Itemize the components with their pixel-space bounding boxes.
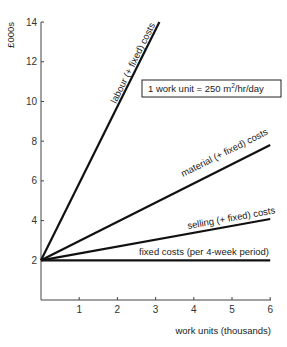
annotation-prefix: 1 work unit = 250 m (148, 83, 231, 94)
annotation-suffix: /hr/day (235, 83, 264, 94)
fixed-line-label: fixed costs (per 4-week period) (139, 246, 269, 257)
y-tick-label: 8 (31, 136, 37, 147)
y-tick-label: 6 (31, 175, 37, 186)
x-tick-label: 1 (76, 304, 82, 315)
x-tick-label: 6 (267, 304, 273, 315)
material-cost-line (41, 145, 270, 260)
x-tick-label: 3 (153, 304, 159, 315)
svg-text:1 work unit = 250 m2/hr/day: 1 work unit = 250 m2/hr/day (148, 82, 264, 94)
work-unit-annotation: 1 work unit = 250 m2/hr/day (142, 80, 281, 97)
x-tick-label: 2 (115, 304, 121, 315)
y-tick-label: 14 (26, 17, 38, 28)
cost-chart: 2 4 6 8 10 12 14 1 2 3 4 5 6 £000s work … (0, 0, 287, 347)
x-tick-label: 4 (191, 304, 197, 315)
y-tick-label: 2 (31, 255, 37, 266)
y-tick-label: 4 (31, 215, 37, 226)
x-tick-label: 5 (229, 304, 235, 315)
labour-cost-line (41, 22, 159, 260)
y-tick-label: 10 (26, 96, 38, 107)
y-tick-label: 12 (26, 56, 38, 67)
x-axis-title: work units (thousands) (174, 325, 271, 336)
y-axis-title: £000s (5, 22, 16, 48)
